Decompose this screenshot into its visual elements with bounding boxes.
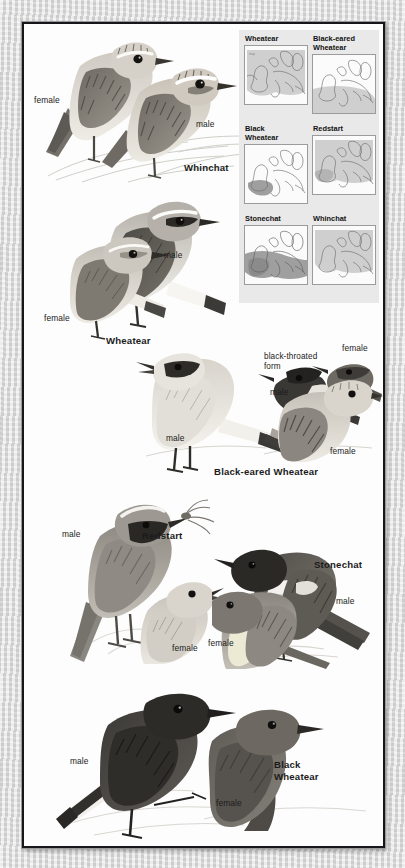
- wheatear-label-male: male: [164, 251, 183, 261]
- map-title-black-eared-wheatear: Black-eared Wheatear: [313, 34, 375, 52]
- bew-label-black-throated-form: black-throated form: [264, 352, 317, 372]
- bew-label-female-right: female: [330, 447, 356, 457]
- distribution-map-panel: Wheatear: [239, 30, 379, 303]
- map-title-stonechat: Stonechat: [245, 214, 307, 223]
- stonechat-species-label: Stonechat: [314, 559, 362, 570]
- map-title-black-wheatear: Black Wheatear: [245, 124, 307, 142]
- map-cell-wheatear: Wheatear: [244, 34, 307, 105]
- map-title-whinchat: Whinchat: [313, 214, 375, 223]
- redstart-label-male: male: [62, 530, 81, 540]
- map-cell-stonechat: Stonechat: [244, 214, 307, 285]
- map-title-wheatear: Wheatear: [245, 34, 307, 43]
- black-wheatear-label-female: female: [216, 799, 242, 809]
- bew-label-female-top: female: [342, 344, 368, 354]
- map-box-whinchat[interactable]: [312, 225, 376, 285]
- svg-text:map: map: [249, 52, 255, 56]
- bew-species-label: Black-eared Wheatear: [214, 466, 318, 477]
- map-cell-redstart: Redstart: [312, 124, 375, 195]
- whinchat-species-label: Whinchat: [184, 162, 229, 173]
- section-redstart: male Redstart female: [32, 492, 222, 670]
- stonechat-label-male: male: [336, 597, 355, 607]
- whinchat-label-female: female: [34, 96, 60, 106]
- redstart-illustration: [52, 492, 222, 664]
- stonechat-label-female: female: [208, 639, 234, 649]
- section-stonechat: Stonechat male female: [202, 529, 384, 669]
- map-box-stonechat[interactable]: [244, 225, 308, 285]
- section-wheatear: male female Wheatear: [24, 189, 249, 341]
- bew-label-male-form: male: [270, 388, 289, 398]
- bew-label-male-left: male: [166, 434, 185, 444]
- map-cell-black-wheatear: Black Wheatear: [244, 124, 307, 204]
- whinchat-label-male: male: [196, 120, 215, 130]
- map-box-black-eared-wheatear[interactable]: [312, 54, 376, 114]
- map-box-redstart[interactable]: [312, 135, 376, 195]
- black-wheatear-illustration: [54, 679, 374, 841]
- map-title-redstart: Redstart: [313, 124, 375, 133]
- map-cell-whinchat: Whinchat: [312, 214, 375, 285]
- redstart-label-female: female: [172, 644, 198, 654]
- map-box-wheatear[interactable]: map: [244, 45, 308, 105]
- black-wheatear-label-male: male: [70, 757, 89, 767]
- section-black-wheatear: male female Black Wheatear: [44, 679, 383, 844]
- wheatear-label-female: female: [44, 314, 70, 324]
- redstart-species-label: Redstart: [142, 530, 183, 541]
- whinchat-illustration: [28, 26, 254, 184]
- field-guide-plate: female male Whinchat: [22, 22, 385, 848]
- section-black-eared-wheatear: black-throated form male female male fem…: [136, 342, 383, 482]
- black-wheatear-species-label: Black Wheatear: [274, 759, 319, 782]
- map-cell-black-eared-wheatear: Black-eared Wheatear: [312, 34, 375, 114]
- wheatear-illustration: [58, 189, 248, 339]
- section-whinchat: female male Whinchat: [24, 24, 254, 184]
- map-box-black-wheatear[interactable]: [244, 144, 308, 204]
